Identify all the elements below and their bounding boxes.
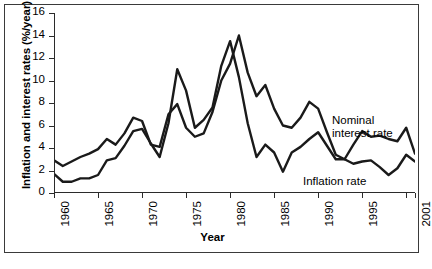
chart-figure: Inflation and interest rates (%/year) 02… [4, 4, 419, 253]
inflation-rate-label: Inflation rate [303, 175, 366, 188]
x-tick [415, 193, 416, 198]
nominal-label-line1: Nominal [332, 114, 393, 127]
inflation-rate-line [54, 41, 415, 182]
x-tick [54, 193, 55, 198]
x-tick [362, 193, 363, 198]
x-tick [186, 193, 187, 198]
x-axis-title: Year [5, 231, 420, 243]
plot-area: 0246810121416 19601965197019751980198519… [54, 13, 415, 193]
x-tick-label: 1975 [191, 201, 203, 227]
x-tick-label: 1995 [367, 201, 379, 227]
y-axis-line [54, 13, 55, 193]
y-tick-label: 12 [32, 50, 45, 62]
x-tick-label: 2001 [420, 201, 432, 227]
y-tick-label: 4 [39, 140, 45, 152]
y-axis-title: Inflation and interest rates (%/year) [20, 0, 32, 200]
y-tick: 16 [49, 13, 54, 14]
nominal-label-line2: interest rate [332, 127, 393, 140]
y-tick-label: 16 [32, 5, 45, 17]
x-tick-label: 1960 [59, 201, 71, 227]
y-tick-label: 6 [39, 118, 45, 130]
y-tick-label: 2 [39, 163, 45, 175]
x-tick-label: 1985 [279, 201, 291, 227]
x-tick [98, 193, 99, 198]
y-tick-label: 8 [39, 95, 45, 107]
x-tick [406, 193, 407, 198]
x-tick [142, 193, 143, 198]
x-tick-label: 1980 [235, 201, 247, 227]
x-tick-label: 1965 [103, 201, 115, 227]
y-tick: 2 [49, 171, 54, 172]
y-tick: 4 [49, 148, 54, 149]
x-tick-label: 1970 [147, 201, 159, 227]
y-tick: 10 [49, 81, 54, 82]
x-axis-line [54, 192, 415, 193]
nominal-interest-rate-label: Nominal interest rate [332, 114, 393, 139]
y-tick-label: 0 [39, 185, 45, 197]
y-tick-label: 10 [32, 73, 45, 85]
y-tick: 8 [49, 103, 54, 104]
y-tick-label: 14 [32, 28, 45, 40]
y-tick: 12 [49, 58, 54, 59]
series-lines [54, 13, 415, 193]
x-tick [274, 193, 275, 198]
y-tick: 14 [49, 36, 54, 37]
x-tick [318, 193, 319, 198]
x-tick-label: 1990 [323, 201, 335, 227]
x-tick [230, 193, 231, 198]
y-tick: 6 [49, 126, 54, 127]
